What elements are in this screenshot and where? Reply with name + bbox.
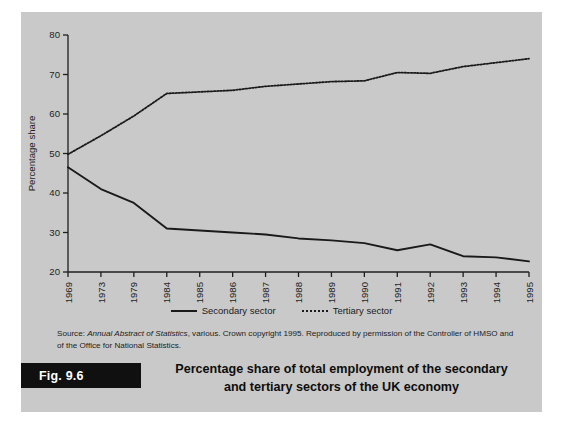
y-axis-title: Percentage share [26,116,37,192]
y-axis-tick-label: 20 [49,266,60,277]
chart-plot-area: 2030405060708019691973197919841985198619… [21,12,542,412]
figure-panel: 2030405060708019691973197919841985198619… [21,12,542,412]
y-axis-tick-label: 80 [49,29,60,40]
y-axis-tick-label: 50 [49,148,60,159]
legend-item-secondary-sector: Secondary sector [171,305,276,316]
chart-legend: Secondary sector Tertiary sector [21,305,542,316]
y-axis-tick-label: 40 [49,187,60,198]
x-axis-tick-label: 1985 [194,282,205,303]
figure-caption-line-1: Percentage share of total employment of … [149,361,534,379]
x-axis-tick-label: 1993 [458,282,469,303]
x-axis-tick-label: 1986 [227,282,238,303]
series-line-secondary-sector [68,167,529,261]
figure-root: 2030405060708019691973197919841985198619… [0,0,562,425]
legend-swatch-dotted-line-icon [302,310,328,312]
legend-swatch-solid-line-icon [171,310,197,312]
x-axis-tick-label: 1992 [425,282,436,303]
y-axis-tick-label: 60 [49,108,60,119]
x-axis-tick-label: 1989 [326,282,337,303]
source-note: Source: Annual Abstract of Statistics, v… [57,328,519,352]
series-line-tertiary-sector [68,59,529,155]
legend-label-tertiary-sector: Tertiary sector [333,305,393,316]
x-axis-tick-label: 1984 [161,281,172,303]
source-prefix: Source: [57,329,87,338]
y-axis-tick-label: 70 [49,69,60,80]
line-chart-svg: 2030405060708019691973197919841985198619… [21,12,542,312]
figure-caption-line-2: and tertiary sectors of the UK economy [149,379,534,397]
x-axis-tick-label: 1987 [260,282,271,303]
x-axis-tick-label: 1969 [63,282,74,303]
caption-row: Fig. 9.6 Percentage share of total emplo… [21,363,542,403]
x-axis-tick-label: 1988 [293,282,304,303]
legend-label-secondary-sector: Secondary sector [202,305,276,316]
y-axis-tick-label: 30 [49,227,60,238]
figure-number-tag: Fig. 9.6 [21,363,141,388]
legend-item-tertiary-sector: Tertiary sector [302,305,393,316]
x-axis-tick-label: 1979 [128,282,139,303]
x-axis-tick-label: 1990 [359,282,370,303]
figure-caption: Percentage share of total employment of … [149,361,534,397]
source-publication-title: Annual Abstract of Statistics [87,329,187,338]
x-axis-tick-label: 1973 [96,282,107,303]
x-axis-tick-label: 1994 [491,281,502,303]
x-axis-tick-label: 1995 [524,282,535,303]
x-axis-tick-label: 1991 [392,282,403,303]
